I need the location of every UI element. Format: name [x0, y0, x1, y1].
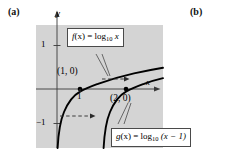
point-label-2-0: (2, 0) — [110, 93, 131, 103]
callout-g-arg: (x) — [121, 131, 132, 141]
y-axis-label: y — [56, 8, 60, 18]
x-tick-label-1: 1 — [77, 91, 82, 101]
callout-box-f: f(x) = log10 x — [67, 28, 124, 47]
callout-g-eq: = log — [131, 131, 152, 141]
panel-label-b: (b) — [190, 6, 202, 17]
figure-root: (a) (b) — [0, 0, 232, 159]
callout-g-var: (x − 1) — [159, 131, 186, 141]
point-label-1-0: (1, 0) — [57, 66, 78, 76]
x-axis-label: x — [146, 77, 150, 87]
y-tick-label-minus-1: −1 — [36, 117, 46, 127]
callout-f-var: x — [113, 31, 119, 41]
callout-f-eq: = log — [85, 31, 106, 41]
callout-f-arg: (x) — [75, 31, 86, 41]
point-marker-2-0 — [124, 87, 129, 92]
y-tick-label-1: 1 — [41, 39, 46, 49]
callout-box-g: g(x) = log10 (x − 1) — [111, 128, 191, 147]
panel-label-a: (a) — [8, 6, 20, 17]
